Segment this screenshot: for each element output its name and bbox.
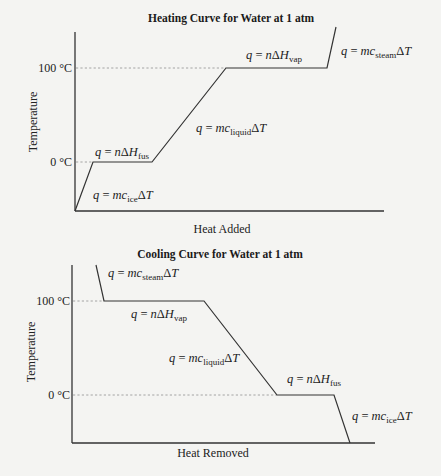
cooling-eq-vap: q = nΔHvap <box>131 307 187 323</box>
heating-eq-fus: q = nΔHfus <box>95 145 149 161</box>
heating-chart-title: Heating Curve for Water at 1 atm <box>148 12 315 25</box>
heating-eq-vap: q = nΔHvap <box>246 48 302 64</box>
cooling-tick-100c: 100 °C <box>36 294 70 308</box>
heating-tick-100c: 100 °C <box>38 61 72 75</box>
heating-eq-steam: q = mcsteamΔT <box>341 44 412 60</box>
heating-eq-ice: q = mciceΔT <box>93 188 154 204</box>
heating-eq-liquid: q = mcliquidΔT <box>196 121 267 137</box>
heating-y-axis-label: Temperature <box>26 92 40 152</box>
cooling-chart: Cooling Curve for Water at 1 atm 100 °C … <box>24 248 413 460</box>
cooling-eq-liquid: q = mcliquidΔT <box>169 351 240 367</box>
cooling-y-axis-label: Temperature <box>24 322 38 382</box>
cooling-eq-fus: q = nΔHfus <box>287 372 341 388</box>
cooling-eq-steam: q = mcsteamΔT <box>108 266 179 282</box>
cooling-curve-line <box>96 265 350 443</box>
cooling-eq-ice: q = mciceΔT <box>352 409 413 425</box>
cooling-chart-title: Cooling Curve for Water at 1 atm <box>137 248 303 261</box>
cooling-tick-0c: 0 °C <box>48 388 70 402</box>
heating-chart: Heating Curve for Water at 1 atm 100 °C … <box>26 12 412 236</box>
phase-change-figure: Heating Curve for Water at 1 atm 100 °C … <box>0 0 441 476</box>
cooling-x-axis-label: Heat Removed <box>177 446 249 460</box>
heating-x-axis-label: Heat Added <box>194 222 251 236</box>
heating-tick-0c: 0 °C <box>50 155 72 169</box>
